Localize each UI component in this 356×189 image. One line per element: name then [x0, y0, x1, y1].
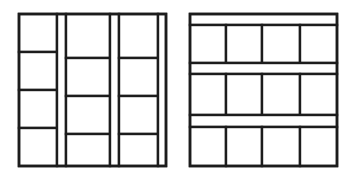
cell: [262, 74, 300, 115]
cell: [190, 127, 226, 166]
layout-pattern-svg: [0, 0, 356, 189]
cell: [226, 25, 262, 63]
cell: [19, 90, 57, 128]
cell: [226, 127, 262, 166]
cell: [66, 14, 110, 58]
right-panel-horizontal-strip-layout: [190, 14, 337, 166]
horizontal-strip-1: [190, 63, 337, 74]
cell: [119, 14, 158, 58]
cell: [300, 25, 337, 63]
horizontal-strip-2: [190, 115, 337, 127]
row-group-3: [190, 127, 337, 166]
cell: [19, 14, 57, 52]
diagram-canvas: [0, 0, 356, 189]
cell: [300, 127, 337, 166]
cell: [119, 96, 158, 134]
column-group-1: [19, 14, 57, 166]
column-group-2: [66, 14, 110, 166]
row-group-2: [190, 74, 337, 115]
row-group-1: [190, 25, 337, 63]
cell: [300, 74, 337, 115]
cell: [226, 74, 262, 115]
cell: [66, 134, 110, 166]
column-group-3: [119, 14, 158, 166]
horizontal-strip-top: [190, 14, 337, 25]
cell: [262, 25, 300, 63]
cell: [190, 74, 226, 115]
cell: [262, 127, 300, 166]
cell: [19, 128, 57, 166]
cell: [119, 134, 158, 166]
cell: [66, 58, 110, 96]
vertical-strip-1: [57, 14, 66, 166]
cell: [190, 25, 226, 63]
cell: [119, 58, 158, 96]
left-panel-vertical-strip-layout: [19, 14, 166, 166]
cell: [66, 96, 110, 134]
cell: [19, 52, 57, 90]
vertical-strip-2: [110, 14, 119, 166]
